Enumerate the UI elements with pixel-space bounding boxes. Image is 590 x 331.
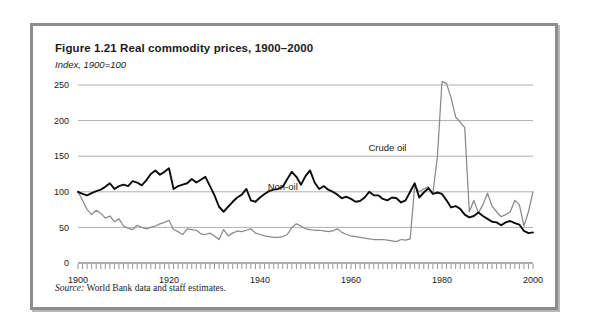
source-text: World Bank data and staff estimates.	[86, 283, 225, 293]
data-series-group	[78, 81, 533, 241]
y-tick-label-100: 100	[54, 187, 69, 197]
series-line-non-oil	[78, 168, 533, 233]
series-annotations-group: Crude oilNon-oil	[268, 142, 407, 192]
x-tick-label-1960: 1960	[341, 275, 361, 285]
figure-frame: Figure 1.21 Real commodity prices, 1900–…	[30, 23, 558, 310]
y-tick-label-250: 250	[54, 80, 69, 90]
x-tick-label-1940: 1940	[250, 275, 270, 285]
y-axis-tick-labels: 050100150200250	[54, 80, 69, 268]
series-line-crude-oil	[78, 81, 533, 241]
y-tick-label-0: 0	[64, 258, 69, 268]
x-minor-ticks-group	[78, 264, 533, 269]
x-tick-label-2000: 2000	[523, 275, 543, 285]
annotation-crude-oil: Crude oil	[368, 142, 406, 153]
y-tick-label-200: 200	[54, 116, 69, 126]
y-tick-label-150: 150	[54, 151, 69, 161]
commodity-price-line-chart: 050100150200250 190019201940196019802000…	[33, 26, 561, 313]
y-tick-label-50: 50	[59, 223, 69, 233]
annotation-non-oil: Non-oil	[268, 181, 298, 192]
x-tick-label-1980: 1980	[432, 275, 452, 285]
source-label: Source:	[55, 283, 84, 293]
source-note: Source: World Bank data and staff estima…	[55, 283, 226, 293]
chart-plot-area: 050100150200250 190019201940196019802000…	[33, 26, 561, 313]
gridlines-group	[78, 85, 533, 227]
